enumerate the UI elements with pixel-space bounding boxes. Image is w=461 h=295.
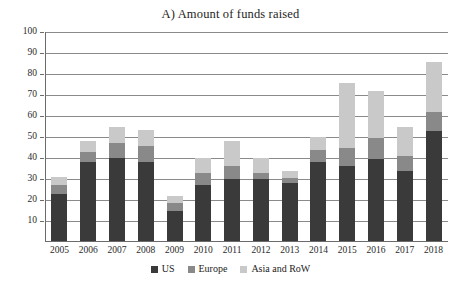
bar-segment-europe[interactable]	[138, 146, 154, 162]
bar-segment-europe[interactable]	[310, 150, 326, 163]
bar-segment-asia-and-row[interactable]	[80, 141, 96, 152]
y-axis-tick	[40, 32, 44, 33]
bar-stack[interactable]	[339, 32, 355, 242]
plot-area	[45, 32, 448, 242]
bar-segment-asia-and-row[interactable]	[224, 141, 240, 166]
bar-segment-asia-and-row[interactable]	[397, 127, 413, 156]
y-axis-tick	[40, 53, 44, 54]
y-axis-tick-label: 50	[28, 132, 38, 142]
y-axis-line	[45, 32, 46, 242]
legend-item[interactable]: Asia and RoW	[240, 264, 310, 274]
y-axis-tick	[40, 137, 44, 138]
y-axis-labels: 100908070605040302010	[0, 0, 45, 252]
bar-segment-europe[interactable]	[368, 138, 384, 159]
legend-item[interactable]: US	[151, 264, 175, 274]
bar-segment-europe[interactable]	[426, 112, 442, 131]
bar-segment-us[interactable]	[80, 162, 96, 242]
bar-segment-asia-and-row[interactable]	[51, 177, 67, 185]
bar-series-group	[45, 32, 448, 242]
bar-segment-us[interactable]	[397, 171, 413, 242]
bar-segment-us[interactable]	[51, 194, 67, 242]
legend-swatch-icon	[240, 266, 247, 273]
bar-stack[interactable]	[138, 32, 154, 242]
bar-segment-europe[interactable]	[397, 156, 413, 171]
y-axis-tick-label: 100	[23, 27, 37, 37]
bar-segment-europe[interactable]	[339, 148, 355, 167]
x-axis-labels: 2005200620072008200920102011201220132014…	[45, 245, 448, 261]
x-axis-line	[45, 241, 448, 242]
y-axis-tick-label: 60	[28, 111, 38, 121]
bar-segment-us[interactable]	[426, 131, 442, 242]
y-axis-tick-label: 40	[28, 153, 38, 163]
bar-stack[interactable]	[109, 32, 125, 242]
bar-stack[interactable]	[80, 32, 96, 242]
y-axis-tick-label: 80	[28, 69, 38, 79]
bar-stack[interactable]	[195, 32, 211, 242]
bar-segment-asia-and-row[interactable]	[426, 62, 442, 111]
y-axis-tick-label: 70	[28, 90, 38, 100]
bar-segment-us[interactable]	[109, 158, 125, 242]
bar-segment-europe[interactable]	[80, 152, 96, 163]
bar-stack[interactable]	[167, 32, 183, 242]
bar-segment-asia-and-row[interactable]	[167, 196, 183, 203]
bar-segment-europe[interactable]	[224, 166, 240, 179]
x-axis-tick-label: 2018	[417, 245, 451, 255]
y-axis-tick-label: 90	[28, 48, 38, 58]
bar-segment-europe[interactable]	[253, 173, 269, 179]
y-axis-tick	[40, 95, 44, 96]
legend-label: US	[162, 264, 175, 274]
y-axis-tick-label: 30	[28, 174, 38, 184]
legend-label: Asia and RoW	[251, 264, 310, 274]
bar-segment-us[interactable]	[368, 159, 384, 242]
bar-segment-europe[interactable]	[195, 173, 211, 186]
bar-segment-asia-and-row[interactable]	[368, 91, 384, 138]
bar-segment-us[interactable]	[282, 183, 298, 242]
bar-segment-asia-and-row[interactable]	[282, 171, 298, 178]
chart-container: A) Amount of funds raised 10090807060504…	[0, 0, 461, 295]
bar-segment-europe[interactable]	[167, 203, 183, 210]
bar-segment-asia-and-row[interactable]	[138, 130, 154, 147]
y-axis-tick-label: 10	[28, 216, 38, 226]
y-axis-tick	[40, 116, 44, 117]
bar-stack[interactable]	[310, 32, 326, 242]
bar-segment-us[interactable]	[224, 179, 240, 242]
bar-stack[interactable]	[426, 32, 442, 242]
bar-stack[interactable]	[282, 32, 298, 242]
bar-stack[interactable]	[397, 32, 413, 242]
bar-segment-us[interactable]	[195, 185, 211, 242]
legend-swatch-icon	[188, 266, 195, 273]
bar-stack[interactable]	[368, 32, 384, 242]
bar-segment-us[interactable]	[310, 162, 326, 242]
y-axis-tick-label: 20	[28, 195, 38, 205]
chart-title: A) Amount of funds raised	[0, 7, 461, 22]
bar-stack[interactable]	[51, 32, 67, 242]
bar-segment-asia-and-row[interactable]	[109, 127, 125, 144]
bar-segment-us[interactable]	[253, 179, 269, 242]
bar-segment-us[interactable]	[138, 162, 154, 242]
bar-segment-asia-and-row[interactable]	[195, 158, 211, 173]
y-axis-tick	[40, 200, 44, 201]
bar-segment-us[interactable]	[167, 211, 183, 243]
bar-segment-europe[interactable]	[282, 178, 298, 183]
bar-segment-asia-and-row[interactable]	[253, 158, 269, 173]
bar-stack[interactable]	[224, 32, 240, 242]
legend-item[interactable]: Europe	[188, 264, 228, 274]
y-axis-tick	[40, 158, 44, 159]
chart-legend: USEuropeAsia and RoW	[0, 264, 461, 274]
legend-swatch-icon	[151, 266, 158, 273]
bar-segment-asia-and-row[interactable]	[339, 83, 355, 147]
bar-segment-asia-and-row[interactable]	[310, 137, 326, 150]
y-axis-tick	[40, 221, 44, 222]
legend-label: Europe	[199, 264, 228, 274]
y-axis-tick	[40, 179, 44, 180]
bar-segment-europe[interactable]	[51, 185, 67, 193]
bar-segment-europe[interactable]	[109, 143, 125, 158]
y-axis-tick	[40, 74, 44, 75]
bar-segment-us[interactable]	[339, 166, 355, 242]
bar-stack[interactable]	[253, 32, 269, 242]
